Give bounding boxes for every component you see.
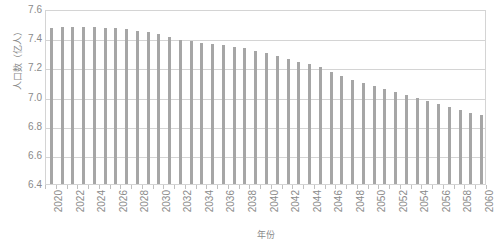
bar (104, 28, 107, 184)
bar (200, 43, 203, 184)
x-axis-tick (475, 185, 476, 189)
x-axis-tick (45, 185, 46, 189)
bar (157, 34, 160, 184)
y-axis-tick-labels: 7.67.47.27.06.86.66.4 (16, 10, 42, 185)
bar (147, 32, 150, 184)
bar (168, 37, 171, 184)
bar (71, 27, 74, 185)
x-axis-tick-label: 2032 (183, 190, 193, 212)
x-axis-tick-label: 2030 (162, 190, 172, 212)
bar (125, 29, 128, 184)
x-axis-tick (67, 185, 68, 189)
x-axis-tick (153, 185, 154, 189)
y-axis-tick-label: 6.4 (16, 180, 42, 190)
x-axis-tick (368, 185, 369, 189)
x-axis-tick-label: 2060 (485, 190, 495, 212)
y-axis-tick-label: 7.4 (16, 34, 42, 44)
bar (480, 115, 483, 184)
y-axis-tick-label: 7.6 (16, 5, 42, 15)
bar (383, 89, 386, 184)
bar (50, 28, 53, 184)
bar (437, 104, 440, 184)
bar (287, 59, 290, 184)
x-axis-tick (346, 185, 347, 189)
bar (297, 62, 300, 185)
x-axis-tick (174, 185, 175, 189)
x-axis-tick (131, 185, 132, 189)
x-axis-tick-label: 2050 (377, 190, 387, 212)
x-axis-tick-label: 2046 (334, 190, 344, 212)
x-axis-tick (88, 185, 89, 189)
y-axis-tick-label: 7.0 (16, 93, 42, 103)
x-axis-tick (185, 185, 186, 189)
bar (351, 80, 354, 184)
x-axis-tick (206, 185, 207, 189)
x-axis-tick (260, 185, 261, 189)
x-axis-title: 年份 (45, 228, 486, 241)
x-axis-tick-label: 2048 (356, 190, 366, 212)
x-axis-tick (56, 185, 57, 189)
bar (459, 110, 462, 184)
bar (319, 67, 322, 184)
bar (136, 31, 139, 184)
bar (211, 44, 214, 184)
bar (308, 64, 311, 184)
x-axis-tick (421, 185, 422, 189)
bar (61, 27, 64, 185)
x-axis-tick (378, 185, 379, 189)
bar (373, 86, 376, 184)
population-bar-chart: 人口数（亿人） 7.67.47.27.06.86.66.4 2020202220… (0, 0, 496, 249)
bar (469, 113, 472, 184)
bar (330, 72, 333, 184)
bar (416, 98, 419, 184)
bar (405, 95, 408, 184)
x-axis-tick (454, 185, 455, 189)
x-axis-tick (443, 185, 444, 189)
x-axis-tick (271, 185, 272, 189)
bar (93, 27, 96, 185)
x-axis-tick-label: 2038 (248, 190, 258, 212)
bar (394, 92, 397, 184)
x-axis-tick-labels: 2020202220242026202820302032203420362038… (45, 190, 486, 224)
x-axis-tick-label: 2058 (463, 190, 473, 212)
x-axis-tick (325, 185, 326, 189)
x-axis-tick (314, 185, 315, 189)
x-axis-tick (335, 185, 336, 189)
y-axis-tick-label: 6.8 (16, 122, 42, 132)
bars-layer (46, 11, 485, 184)
x-axis-tick-label: 2036 (226, 190, 236, 212)
bar (114, 28, 117, 184)
x-axis-tick-label: 2028 (140, 190, 150, 212)
bar (82, 27, 85, 185)
x-axis-tick (163, 185, 164, 189)
x-axis-tick (486, 185, 487, 189)
x-axis-tick (282, 185, 283, 189)
x-axis-tick (120, 185, 121, 189)
x-axis-tick (99, 185, 100, 189)
bar (233, 47, 236, 184)
x-axis-tick-label: 2034 (205, 190, 215, 212)
bar (254, 51, 257, 184)
x-axis-tick (239, 185, 240, 189)
x-axis-tick (357, 185, 358, 189)
y-axis-tick-label: 7.2 (16, 63, 42, 73)
bar (243, 48, 246, 184)
x-axis-tick (142, 185, 143, 189)
x-axis-tick (303, 185, 304, 189)
x-axis-tick-label: 2056 (442, 190, 452, 212)
x-axis-tick-label: 2054 (420, 190, 430, 212)
x-axis-tick (292, 185, 293, 189)
x-axis-tick-label: 2022 (76, 190, 86, 212)
bar (448, 107, 451, 184)
x-axis-tick-label: 2024 (97, 190, 107, 212)
bar (222, 45, 225, 184)
x-axis-tick-label: 2042 (291, 190, 301, 212)
bar (362, 83, 365, 184)
bar (190, 41, 193, 184)
x-axis-tick (196, 185, 197, 189)
x-axis-tick (249, 185, 250, 189)
bar (426, 101, 429, 184)
x-axis-tick-label: 2020 (54, 190, 64, 212)
x-axis-tick (217, 185, 218, 189)
x-axis-tick (77, 185, 78, 189)
